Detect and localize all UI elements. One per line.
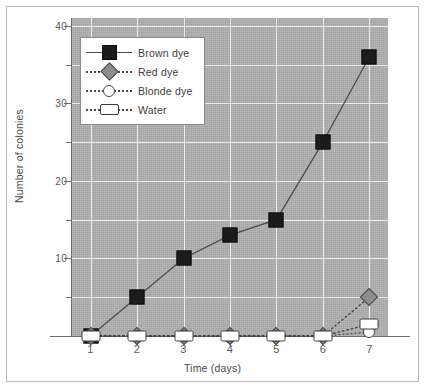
y-axis-tick-label: 20 [27,175,67,186]
data-point-marker [128,331,147,342]
data-point-marker [362,49,377,64]
brown-dye-swatch-icon [86,45,132,61]
data-point-marker [81,331,100,342]
data-point-marker [176,251,191,266]
y-axis-tick-label: 10 [27,253,67,264]
data-point-marker [269,212,284,227]
legend-item-red-dye[interactable]: Red dye [86,62,198,81]
red-dye-swatch-icon [86,64,132,80]
water-swatch-icon [86,102,132,118]
data-point-marker [174,331,193,342]
legend-item-water[interactable]: Water [86,100,198,119]
x-axis-tick-label: 5 [263,343,289,355]
data-point-marker [223,228,238,243]
y-axis-tick-label: 30 [27,98,67,109]
chart-figure: 10203040 1234567 Time (days) Number of c… [0,0,425,388]
gridline-vertical [276,18,277,336]
legend-label: Blonde dye [132,85,193,97]
legend-label: Water [132,104,167,116]
y-axis-minor-tick [66,297,71,298]
y-axis-tick-label: 40 [27,20,67,31]
data-point-marker [360,319,379,330]
y-axis-line [71,18,72,337]
y-axis-minor-tick [66,220,71,221]
gridline-vertical [323,18,324,336]
y-axis-minor-tick [66,142,71,143]
data-point-marker [130,290,145,305]
legend[interactable]: Brown dye Red dye Blonde dye Water [80,37,205,125]
gridline-vertical [230,18,231,336]
legend-label: Brown dye [132,47,189,59]
y-axis-title: Number of colonies [13,71,25,241]
legend-label: Red dye [132,66,179,78]
legend-item-blonde-dye[interactable]: Blonde dye [86,81,198,100]
data-point-marker [313,331,332,342]
blonde-dye-swatch-icon [86,83,132,99]
y-axis-minor-tick [66,65,71,66]
data-point-marker [315,135,330,150]
legend-item-brown-dye[interactable]: Brown dye [86,43,198,62]
x-axis-title: Time (days) [0,362,425,374]
data-point-marker [267,331,286,342]
x-axis-tick-label: 7 [356,343,382,355]
data-point-marker [221,331,240,342]
